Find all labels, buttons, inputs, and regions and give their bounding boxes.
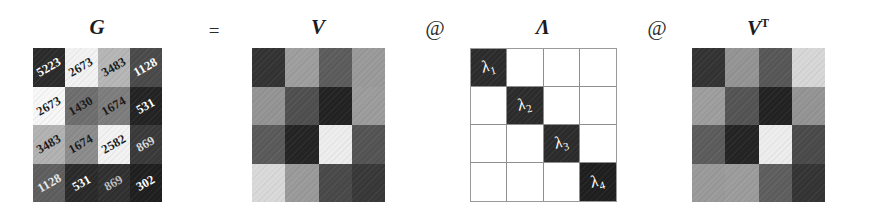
matrix-cell — [285, 125, 318, 164]
matrix-cell: 2673 — [33, 87, 65, 126]
matrix-cell — [580, 87, 616, 125]
matrix-cell — [759, 87, 792, 126]
matrix-cell — [725, 164, 758, 203]
matrix-cell-value: 3483 — [35, 132, 64, 156]
matrix-cell — [507, 49, 543, 87]
matrix-label-lambda: Λ — [493, 17, 593, 38]
matrix-cell: 5223 — [33, 48, 65, 87]
matrix-cell — [471, 125, 507, 163]
matrix-cell-value: 1128 — [35, 171, 63, 194]
matrix-cell: 869 — [130, 125, 162, 164]
matrix-cell — [252, 87, 285, 126]
matrix-cell — [759, 125, 792, 164]
matrix-cell — [692, 125, 725, 164]
matrix-cell: 1430 — [65, 87, 97, 126]
matrix-cell-value: 531 — [134, 95, 157, 116]
matrix-cell — [792, 87, 825, 126]
matrix-cell — [319, 48, 352, 87]
matrix-cell: λ1 — [471, 49, 507, 87]
matrix-cell: 3483 — [98, 48, 130, 87]
matrix-cell — [252, 48, 285, 87]
matrix-cell — [580, 125, 616, 163]
matrix-cell — [471, 163, 507, 201]
matrix-cell: 1674 — [65, 125, 97, 164]
matrix-cell: λ3 — [544, 125, 580, 163]
matrix-cell — [285, 164, 318, 203]
matrix-equation-figure: G = V @ Λ @ VT 5223267334831128267314301… — [0, 0, 871, 218]
eigenvalue-label: λ1 — [480, 56, 498, 79]
matrix-cell — [507, 163, 543, 201]
operator-matmul-first: @ — [395, 18, 475, 39]
matrix-cell: 531 — [65, 164, 97, 203]
matrix-cell: 1674 — [98, 87, 130, 126]
matrix-cell — [285, 87, 318, 126]
matrix-cell: 531 — [130, 87, 162, 126]
matrix-cell — [319, 87, 352, 126]
matrix-label-superscript: T — [761, 16, 769, 30]
matrix-cell-value: 2582 — [99, 132, 128, 156]
matrix-cell-value: 2673 — [67, 55, 96, 79]
matrix-cell: λ2 — [507, 87, 543, 125]
matrix-cell-value: 869 — [102, 172, 125, 193]
matrix-cell — [544, 87, 580, 125]
matrix-cell-value: 302 — [134, 172, 157, 193]
matrix-cell — [725, 48, 758, 87]
matrix-cell — [285, 48, 318, 87]
eigenvalue-label: λ3 — [552, 132, 570, 155]
matrix-cell — [725, 87, 758, 126]
matrix-label-text: V — [747, 16, 761, 40]
matrix-cell — [692, 87, 725, 126]
matrix-cell — [352, 48, 385, 87]
matrix-cell — [692, 48, 725, 87]
matrix-cell — [352, 87, 385, 126]
eigenvalue-label: λ4 — [589, 170, 607, 193]
matrix-label-v-transpose: VT — [708, 17, 808, 39]
matrix-cell-value: 3483 — [99, 55, 128, 79]
matrix-cell — [352, 125, 385, 164]
matrix-block-v-transpose — [692, 48, 825, 202]
matrix-cell — [544, 163, 580, 201]
matrix-cell: λ4 — [580, 163, 616, 201]
matrix-cell: 1128 — [33, 164, 65, 203]
matrix-cell-value: 5223 — [35, 55, 64, 79]
matrix-cell — [471, 87, 507, 125]
matrix-cell — [692, 164, 725, 203]
operator-matmul-second: @ — [617, 18, 697, 39]
matrix-label-text: V — [311, 15, 325, 39]
operator-equals: = — [174, 21, 254, 40]
matrix-cell: 2582 — [98, 125, 130, 164]
matrix-cell: 869 — [98, 164, 130, 203]
matrix-cell: 3483 — [33, 125, 65, 164]
matrix-block-v — [252, 48, 385, 202]
matrix-label-text: G — [89, 15, 104, 39]
matrix-cell — [319, 125, 352, 164]
eigenvalue-label: λ2 — [516, 94, 534, 117]
matrix-cell — [507, 125, 543, 163]
matrix-cell: 1128 — [130, 48, 162, 87]
matrix-cell — [759, 48, 792, 87]
matrix-cell: 2673 — [65, 48, 97, 87]
matrix-cell-value: 1430 — [67, 94, 96, 118]
matrix-cell-value: 1674 — [99, 94, 128, 118]
matrix-cell — [759, 164, 792, 203]
matrix-cell — [319, 164, 352, 203]
matrix-cell-value: 869 — [134, 134, 157, 155]
matrix-cell — [352, 164, 385, 203]
matrix-cell — [580, 49, 616, 87]
matrix-label-text: Λ — [536, 15, 550, 39]
matrix-cell — [544, 49, 580, 87]
matrix-cell — [252, 164, 285, 203]
matrix-cell — [252, 125, 285, 164]
matrix-cell — [725, 125, 758, 164]
matrix-cell — [792, 48, 825, 87]
matrix-block-lambda: λ1λ2λ3λ4 — [470, 48, 617, 202]
matrix-cell — [792, 125, 825, 164]
matrix-cell — [792, 164, 825, 203]
matrix-label-v: V — [268, 17, 368, 38]
matrix-cell-value: 1674 — [67, 132, 96, 156]
matrix-cell-value: 531 — [70, 172, 93, 193]
matrix-cell: 302 — [130, 164, 162, 203]
matrix-block-g: 5223267334831128267314301674531348316742… — [33, 48, 162, 202]
matrix-cell-value: 1128 — [132, 56, 160, 79]
matrix-label-g: G — [47, 17, 147, 38]
